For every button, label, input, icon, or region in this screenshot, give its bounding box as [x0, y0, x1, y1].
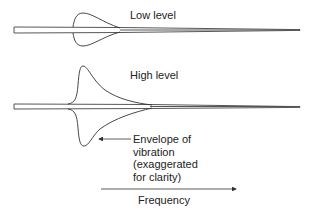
envelope-annotation: Envelope of vibration (exaggerated for c…	[133, 133, 198, 183]
annotation-line-4: for clarity)	[133, 171, 198, 184]
annotation-line-3: (exaggerated	[133, 158, 198, 171]
frequency-axis-label: Frequency	[138, 194, 190, 206]
high-level-bar	[14, 104, 300, 109]
low-level-label: Low level	[130, 9, 176, 21]
annotation-line-2: vibration	[133, 146, 198, 159]
annotation-line-1: Envelope of	[133, 133, 198, 146]
high-level-label: High level	[130, 69, 178, 81]
low-level-bar	[14, 27, 300, 33]
